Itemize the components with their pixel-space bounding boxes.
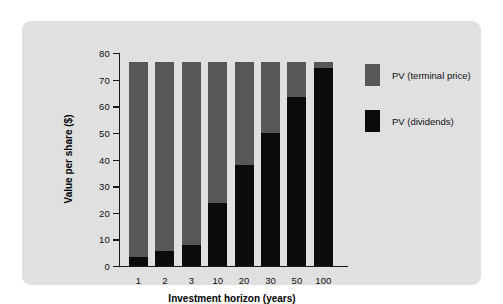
x-tick-label: 1 (136, 275, 141, 286)
bar-stack (261, 62, 280, 266)
bar-stack (287, 62, 306, 266)
chart-card: 01020304050607080 12310203050100 Value p… (22, 21, 481, 285)
bar-segment-terminal-price (208, 62, 227, 203)
y-tick-mark (113, 239, 119, 240)
y-tick-mark (113, 53, 119, 54)
x-tick-label: 30 (265, 275, 276, 286)
y-tick-label: 10 (99, 234, 110, 245)
legend-item[interactable]: PV (dividends) (365, 110, 503, 132)
bar-segment-terminal-price (182, 62, 201, 245)
bar-stack (235, 62, 254, 266)
x-tick-label: 20 (239, 275, 250, 286)
bar-segment-dividends (287, 97, 306, 266)
y-tick-mark (113, 266, 119, 267)
bar-segment-terminal-price (261, 62, 280, 133)
x-tick-label: 2 (162, 275, 167, 286)
y-tick-label: 0 (105, 261, 110, 272)
x-tick-label: 50 (292, 275, 303, 286)
bar-segment-terminal-price (235, 62, 254, 165)
legend-swatch (365, 64, 380, 86)
bar-stack (208, 62, 227, 266)
legend-item[interactable]: PV (terminal price) (365, 64, 503, 86)
y-tick-mark (113, 80, 119, 81)
bar-segment-dividends (314, 68, 333, 266)
legend-label: PV (terminal price) (392, 70, 471, 81)
y-tick-label: 70 (99, 74, 110, 85)
bar-stack (182, 62, 201, 266)
y-tick-label: 20 (99, 207, 110, 218)
y-tick-label: 30 (99, 181, 110, 192)
chart-legend: PV (terminal price)PV (dividends) (365, 64, 503, 156)
y-axis-line (119, 53, 120, 266)
x-tick-label: 100 (315, 275, 331, 286)
y-axis-title: Value per share ($) (63, 115, 74, 204)
plot-area: 01020304050607080 12310203050100 (119, 53, 344, 266)
y-tick-label: 60 (99, 101, 110, 112)
legend-label: PV (dividends) (392, 116, 454, 127)
y-tick-mark (113, 106, 119, 107)
x-axis-title: Investment horizon (years) (168, 293, 295, 304)
bar-segment-terminal-price (155, 62, 174, 251)
y-tick-mark (113, 133, 119, 134)
y-tick-mark (113, 186, 119, 187)
bar-stack (129, 62, 148, 266)
y-tick-label: 50 (99, 127, 110, 138)
x-axis-line (119, 266, 348, 267)
bar-segment-terminal-price (287, 62, 306, 97)
bar-segment-dividends (129, 257, 148, 266)
y-tick-label: 40 (99, 154, 110, 165)
bar-stack (314, 62, 333, 266)
bar-segment-dividends (235, 165, 254, 266)
y-tick-mark (113, 160, 119, 161)
bar-segment-dividends (261, 133, 280, 266)
bar-stack (155, 62, 174, 266)
bar-segment-terminal-price (129, 62, 148, 257)
bar-segment-dividends (182, 245, 201, 266)
y-tick-label: 80 (99, 48, 110, 59)
x-tick-label: 3 (189, 275, 194, 286)
y-tick-mark (113, 213, 119, 214)
bar-segment-dividends (208, 203, 227, 266)
legend-swatch (365, 110, 380, 132)
bar-segment-dividends (155, 251, 174, 266)
x-tick-label: 10 (212, 275, 223, 286)
